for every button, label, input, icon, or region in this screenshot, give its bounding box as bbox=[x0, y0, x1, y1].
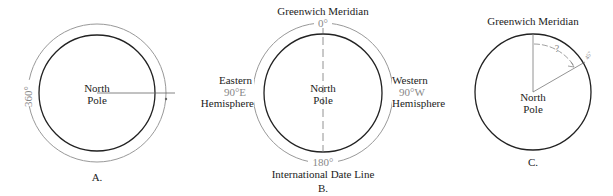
left-label-line3: Hemisphere bbox=[201, 97, 254, 109]
arc-degree-label-a: 360° bbox=[22, 86, 34, 107]
center-label-line1: North bbox=[310, 82, 336, 94]
center-label-line2: Pole bbox=[87, 94, 107, 106]
arrow-tip-a bbox=[165, 98, 167, 100]
center-label-line2: Pole bbox=[313, 94, 333, 106]
left-label-line1: Eastern bbox=[219, 74, 252, 86]
bottom-label-b: International Date Line bbox=[272, 168, 375, 180]
caption-c: C. bbox=[528, 156, 538, 168]
center-label-line1: North bbox=[84, 82, 110, 94]
caption-b: B. bbox=[318, 182, 328, 194]
figure-a: 360° North Pole A. bbox=[22, 24, 175, 183]
diagram-canvas: 360° North Pole A. 0° Greenwich Meridian… bbox=[0, 0, 613, 196]
center-label-line1: North bbox=[520, 91, 546, 103]
center-label-line2: Pole bbox=[523, 103, 543, 115]
right-label-line1: Western bbox=[392, 74, 428, 86]
figure-c: ? 45° Greenwich Meridian North Pole C. bbox=[475, 15, 593, 168]
bottom-degree-b: 180° bbox=[313, 156, 334, 168]
edge-degree-label-c: 45° bbox=[584, 50, 594, 61]
caption-a: A. bbox=[92, 171, 103, 183]
top-label-b: Greenwich Meridian bbox=[277, 5, 369, 17]
angle-label-c: ? bbox=[555, 43, 560, 54]
top-label-c: Greenwich Meridian bbox=[487, 15, 579, 27]
figure-b: 0° Greenwich Meridian 180° International… bbox=[201, 5, 445, 194]
right-label-line3: Hemisphere bbox=[392, 97, 445, 109]
angle-line-c bbox=[533, 62, 585, 92]
top-degree-b: 0° bbox=[318, 17, 328, 29]
